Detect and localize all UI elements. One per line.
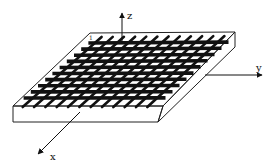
mesh-slab-diagram: z y x 1 [0,0,273,164]
y-axis-label: y [255,62,262,73]
x-axis-label: x [50,151,56,162]
z-axis-label: z [127,10,132,21]
corner-marker-label: 1 [89,34,93,41]
x-axis [38,112,80,154]
slab-front-face [13,106,163,122]
woven-grid [23,36,229,107]
